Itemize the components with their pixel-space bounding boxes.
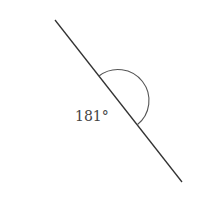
- angle-diagram: 181°: [0, 0, 215, 210]
- straight-line: [55, 20, 182, 182]
- angle-label: 181°: [75, 108, 109, 124]
